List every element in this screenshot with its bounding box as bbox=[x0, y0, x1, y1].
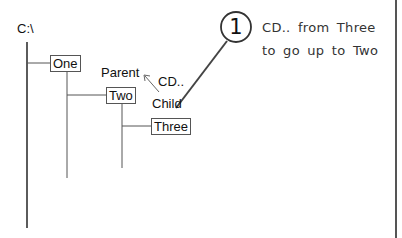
child-label: Child bbox=[152, 96, 182, 111]
tree-lines bbox=[0, 0, 402, 238]
callout-text-line2: to go up to Two bbox=[262, 43, 378, 58]
root-label: C:\ bbox=[17, 21, 34, 36]
parent-label: Parent bbox=[101, 65, 139, 80]
tree-node-one: One bbox=[50, 55, 81, 72]
callout-text-line1: CD.. from Three bbox=[262, 20, 376, 35]
tree-node-two: Two bbox=[106, 87, 136, 104]
command-label: CD.. bbox=[158, 74, 184, 89]
callout-number: 1 bbox=[221, 12, 251, 42]
up-arrow-icon bbox=[144, 75, 159, 92]
tree-node-three: Three bbox=[151, 118, 191, 135]
